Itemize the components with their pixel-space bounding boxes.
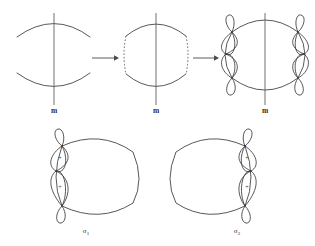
arrow-2 [193,55,219,61]
arrow-2-head [214,55,219,61]
sigma1-small-loop-bottom [57,206,66,223]
arrow-1-head [114,55,119,61]
right-dashed-side [186,36,188,74]
panel-open-arcs: m [17,13,90,115]
panel-sigma-2: + + σ2 [170,129,256,236]
right-large-loop-upper [295,32,308,55]
sigma2-small-loop-top [243,129,252,146]
left-large-loop-lower [221,54,234,78]
right-cross-strand-lower [293,54,304,78]
left-small-loop-top [226,15,234,32]
sigma1-body [56,139,139,215]
sigma1-left-loop-chain [51,129,68,223]
panel-loops-both-sides: m [221,13,308,115]
right-small-loop-bottom [295,78,304,95]
right-loop-chain-3 [293,15,309,95]
sigma1-label: σ1 [83,227,90,236]
sigma2-label-sub: 2 [238,231,241,236]
sigma1-plus-upper: + [58,155,62,161]
sigma1-plus-lower: + [58,184,62,190]
left-dashed-side [124,36,126,74]
bottom-arc [17,73,90,87]
right-small-loop-top [296,15,304,32]
arrow-1 [92,55,119,61]
left-loop-chain-3 [221,15,237,95]
sigma1-label-sub: 1 [87,231,90,236]
figure-root: m m [0,0,315,246]
sigma2-small-loop-bottom [242,206,251,223]
sigma2-right-loop-chain [239,129,256,223]
mirror-label-1: m [51,106,58,115]
sigma1-small-loop-top [55,129,64,146]
top-arc [17,24,90,38]
right-large-loop-lower [295,54,308,78]
panel-dashed-sides: m [124,13,188,115]
panel-sigma-1: + + σ1 [51,129,139,236]
sigma2-label: σ2 [234,227,241,236]
sigma2-plus-lower: + [245,184,249,190]
mirror-label-3: m [262,106,269,115]
left-small-loop-bottom [227,78,236,95]
sigma2-body [170,139,251,215]
diagram-canvas: m m [0,0,315,246]
mirror-label-2: m [153,106,160,115]
left-large-loop-upper [221,32,234,55]
left-cross-strand-lower [226,54,237,78]
